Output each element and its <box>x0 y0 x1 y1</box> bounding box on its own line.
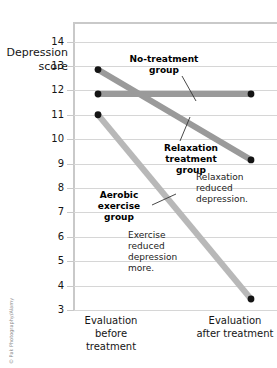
leader-relaxation <box>180 117 190 141</box>
callout-no-treatment-group: No-treatment group <box>120 54 208 76</box>
annotation-exercise-reduced: Exercise reduced depression more. <box>128 230 192 274</box>
x-axis-label-before: Evaluation before treatment <box>72 314 150 353</box>
annotation-relaxation-reduced: Relaxation reduced depression. <box>196 172 272 205</box>
depression-score-line-chart: Depression score 34567891011121314 No-tr… <box>0 0 277 368</box>
x-axis-label-after: Evaluation after treatment <box>196 314 274 340</box>
leader-no-treatment <box>182 76 196 101</box>
image-credit: © Pak Photography/Alamy <box>8 242 14 364</box>
leader-aerobic <box>152 194 176 205</box>
callout-aerobic-exercise-group: Aerobic exercise group <box>88 190 150 223</box>
